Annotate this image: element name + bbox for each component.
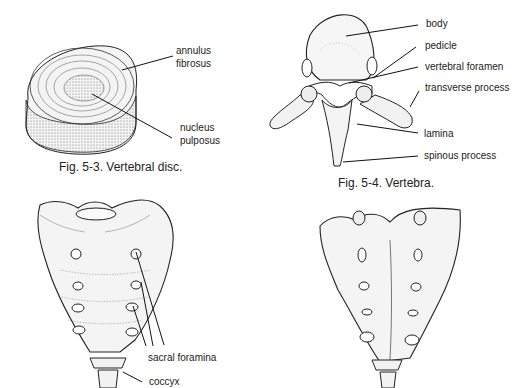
label-pedicle: pedicle	[425, 40, 457, 52]
caption-fig-5-4: Fig. 5-4. Vertebra.	[338, 176, 434, 190]
vertebral-disc-drawing	[26, 46, 173, 154]
label-sacral-foramina: sacral foramina	[148, 352, 216, 364]
vertebra-drawing	[270, 15, 419, 166]
caption-fig-5-3: Fig. 5-3. Vertebral disc.	[59, 160, 182, 174]
label-transverse-process: transverse process	[425, 82, 509, 94]
label-annulus: annulus	[176, 45, 211, 57]
sacrum-posterior-drawing	[320, 208, 460, 388]
label-nucleus: nucleus	[180, 122, 214, 134]
label-spinous-process: spinous process	[424, 150, 496, 162]
illustration-canvas	[0, 0, 531, 388]
label-vertebral-foramen: vertebral foramen	[425, 61, 503, 73]
label-lamina: lamina	[424, 128, 453, 140]
label-coccyx: coccyx	[149, 376, 180, 388]
label-body: body	[426, 18, 448, 30]
label-fibrosus: fibrosus	[176, 58, 211, 70]
label-pulposus: pulposus	[180, 135, 220, 147]
